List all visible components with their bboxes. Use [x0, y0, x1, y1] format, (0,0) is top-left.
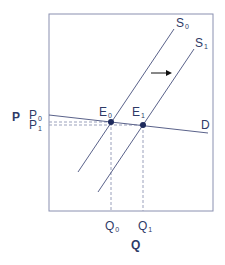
shift-arrow-head-icon: [166, 70, 172, 76]
curve-label-s0: S0: [176, 17, 189, 33]
curve-label-d: D: [201, 119, 210, 131]
tick-label-p1: P1: [29, 119, 42, 135]
equilibrium-point-e1: [140, 122, 146, 128]
point-label-e0: E0: [99, 106, 112, 122]
point-label-e1: E1: [132, 106, 145, 122]
curve-label-s1: S1: [195, 37, 208, 53]
plot-frame: [49, 14, 213, 211]
axis-label-p: P: [12, 111, 20, 123]
tick-label-q1: Q1: [138, 220, 152, 236]
demand-curve: [49, 115, 208, 133]
tick-label-q0: Q0: [105, 220, 119, 236]
axis-label-q: Q: [131, 239, 140, 251]
